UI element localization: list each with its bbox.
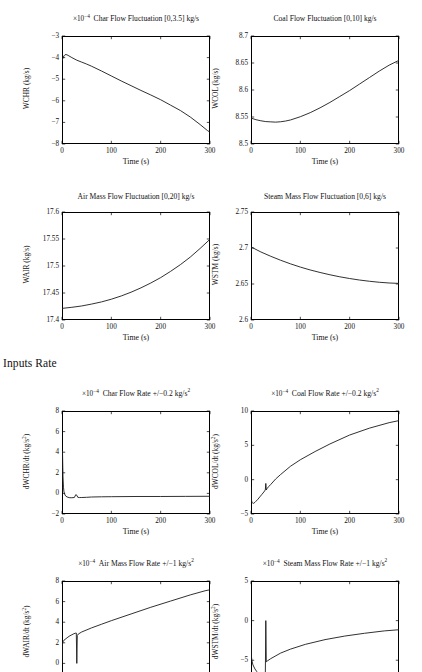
- exponent-multiplier: ×10−4: [271, 390, 288, 398]
- data-series-line: [251, 60, 399, 122]
- plot-steam-mass-flow-fluctuation: Steam Mass Flow Fluctuation [0,6] kg/s2.…: [251, 212, 399, 320]
- data-series-line: [251, 621, 399, 672]
- x-axis-tick-label: 0: [60, 147, 64, 155]
- x-axis-tick-label: 0: [249, 323, 253, 331]
- data-series-line: [251, 247, 399, 283]
- x-axis-tick-label: 100: [106, 323, 117, 331]
- plot-title-air-mass-flow-fluctuation: Air Mass Flow Fluctuation [0,20] kg/s: [62, 192, 210, 201]
- plot-title-text: Coal Flow Rate +/−0.2 kg/s2: [292, 389, 379, 398]
- plot-title-char-flow-rate: ×10−4 Char Flow Rate +/−0.2 kg/s2: [62, 389, 210, 399]
- exponent-power: −4: [84, 13, 90, 19]
- exponent-multiplier: ×10−4: [73, 15, 90, 23]
- x-axis-tick-label: 300: [394, 517, 405, 525]
- plot-canvas: [251, 36, 399, 144]
- plot-char-flow-rate: ×10−4 Char Flow Rate +/−0.2 kg/s2−202468…: [62, 411, 210, 514]
- x-axis-tick-label: 0: [60, 323, 64, 331]
- x-axis-label: Time (s): [62, 527, 210, 536]
- x-axis-tick-label: 300: [394, 323, 405, 331]
- x-axis-tick-label: 200: [155, 517, 166, 525]
- x-axis-tick-label: 100: [295, 323, 306, 331]
- plot-title-text: Coal Flow Fluctuation [0,10] kg/s: [273, 14, 376, 23]
- y-axis-label: dWSTM/dt (kg/s2): [211, 570, 220, 672]
- data-series-line: [62, 590, 210, 664]
- plot-title-text: Char Flow Fluctuation [0,3.5] kg/s: [94, 14, 199, 23]
- exponent-power: −4: [93, 388, 99, 394]
- x-axis-tick-label: 300: [394, 147, 405, 155]
- plot-air-mass-flow-rate: ×10−4 Air Mass Flow Rate +/−1 kg/s202468…: [62, 581, 210, 672]
- plot-title-steam-mass-flow-rate: ×10−4 Steam Mass Flow Rate +/−1 kg/s2: [251, 559, 399, 569]
- plot-canvas: [251, 411, 399, 514]
- data-series-line: [251, 421, 399, 504]
- x-axis-tick-label: 200: [155, 147, 166, 155]
- x-axis-tick-label: 200: [155, 323, 166, 331]
- plot-title-text: Char Flow Rate +/−0.2 kg/s2: [103, 389, 190, 398]
- exponent-multiplier: ×10−4: [82, 390, 99, 398]
- x-axis-label: Time (s): [62, 157, 210, 166]
- y-axis-label: dWCOL/dt (kg/s2): [211, 400, 220, 523]
- x-axis-tick-label: 200: [344, 147, 355, 155]
- plot-title-text: Air Mass Flow Fluctuation [0,20] kg/s: [78, 192, 195, 201]
- y-axis-label: WCHR (kg/s): [22, 25, 31, 153]
- exponent-multiplier: ×10−4: [78, 560, 95, 568]
- plot-title-text: Air Mass Flow Rate +/−1 kg/s2: [99, 559, 194, 568]
- x-axis-label: Time (s): [251, 157, 399, 166]
- y-axis-label: dWAIR/dt (kg/s2): [22, 570, 31, 672]
- plot-air-mass-flow-fluctuation: Air Mass Flow Fluctuation [0,20] kg/s17.…: [62, 212, 210, 320]
- plot-title-text: Steam Mass Flow Rate +/−1 kg/s2: [283, 559, 387, 568]
- plot-canvas: [251, 212, 399, 320]
- plot-title-coal-flow-fluctuation: Coal Flow Fluctuation [0,10] kg/s: [251, 14, 399, 23]
- y-axis-label: WAIR (kg/s): [22, 201, 31, 329]
- plot-canvas: [62, 36, 210, 144]
- x-axis-tick-label: 100: [295, 517, 306, 525]
- plot-canvas: [251, 581, 399, 672]
- x-axis-label: Time (s): [251, 527, 399, 536]
- data-series-line: [62, 55, 210, 133]
- figure-page: Inputs Rate ×10−4 Char Flow Fluctuation …: [0, 0, 422, 672]
- y-axis-label: WCOL (kg/s): [211, 25, 220, 153]
- plot-coal-flow-fluctuation: Coal Flow Fluctuation [0,10] kg/s8.58.55…: [251, 36, 399, 144]
- x-axis-tick-label: 200: [344, 517, 355, 525]
- plot-char-flow-fluctuation: ×10−4 Char Flow Fluctuation [0,3.5] kg/s…: [62, 36, 210, 144]
- plot-canvas: [62, 212, 210, 320]
- plot-coal-flow-rate: ×10−4 Coal Flow Rate +/−0.2 kg/s2−505100…: [251, 411, 399, 514]
- x-axis-label: Time (s): [62, 333, 210, 342]
- plot-title-char-flow-fluctuation: ×10−4 Char Flow Fluctuation [0,3.5] kg/s: [62, 14, 210, 24]
- exponent-power: −4: [282, 388, 288, 394]
- plot-canvas: [62, 581, 210, 672]
- data-series-line: [62, 451, 210, 498]
- y-axis-label: WSTM (kg/s): [211, 201, 220, 329]
- plot-canvas: [62, 411, 210, 514]
- exponent-power: −4: [89, 558, 95, 564]
- x-axis-tick-label: 100: [295, 147, 306, 155]
- section-heading-inputs-rate: Inputs Rate: [3, 357, 57, 369]
- x-axis-tick-label: 100: [106, 147, 117, 155]
- plot-title-air-mass-flow-rate: ×10−4 Air Mass Flow Rate +/−1 kg/s2: [62, 559, 210, 569]
- plot-title-coal-flow-rate: ×10−4 Coal Flow Rate +/−0.2 kg/s2: [251, 389, 399, 399]
- x-axis-tick-label: 200: [344, 323, 355, 331]
- x-axis-tick-label: 100: [106, 517, 117, 525]
- x-axis-tick-label: 0: [249, 147, 253, 155]
- x-axis-tick-label: 0: [60, 517, 64, 525]
- data-series-line: [62, 239, 210, 308]
- x-axis-label: Time (s): [251, 333, 399, 342]
- y-axis-label: dWCHR/dt (kg/s2): [22, 400, 31, 523]
- exponent-multiplier: ×10−4: [263, 560, 280, 568]
- x-axis-tick-label: 0: [249, 517, 253, 525]
- plot-steam-mass-flow-rate: ×10−4 Steam Mass Flow Rate +/−1 kg/s2−50…: [251, 581, 399, 672]
- plot-title-steam-mass-flow-fluctuation: Steam Mass Flow Fluctuation [0,6] kg/s: [251, 192, 399, 201]
- plot-title-text: Steam Mass Flow Fluctuation [0,6] kg/s: [264, 192, 386, 201]
- exponent-power: −4: [274, 558, 280, 564]
